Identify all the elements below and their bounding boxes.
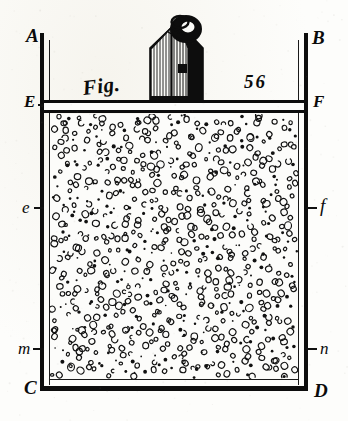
label-f: f [320, 196, 325, 215]
granular-fill-region [50, 114, 298, 379]
lid-plate-body [44, 103, 304, 110]
tick-mark-n [306, 348, 317, 350]
vessel-wall-right-inner-line [298, 40, 299, 385]
vessel-wall-left [40, 33, 44, 390]
weight-center-mark [178, 64, 187, 73]
label-C: C [24, 378, 37, 397]
tick-mark-e [34, 207, 44, 209]
vessel-base-inner-line [49, 379, 299, 380]
weight-base-shadow [150, 96, 203, 101]
label-A: A [26, 26, 39, 45]
label-E: E [24, 93, 35, 110]
label-F: F [313, 93, 324, 110]
figure-plate: A B C D E F e f m n Fig. 56 [0, 0, 348, 421]
tick-mark-E [38, 104, 44, 106]
vessel-wall-right [304, 33, 308, 390]
figure-caption-prefix: Fig. [81, 74, 121, 99]
label-D: D [314, 381, 328, 400]
label-e: e [22, 199, 30, 216]
tick-mark-f [306, 207, 317, 209]
lid-line-bottom [42, 110, 306, 113]
label-m: m [18, 340, 30, 357]
weight-on-lid [128, 14, 224, 102]
engraving-surface: A B C D E F e f m n Fig. 56 [0, 0, 348, 421]
vessel-base [40, 386, 308, 391]
figure-number: 56 [244, 72, 267, 91]
label-B: B [312, 28, 325, 47]
label-n: n [320, 340, 329, 357]
tick-mark-m [33, 348, 44, 350]
